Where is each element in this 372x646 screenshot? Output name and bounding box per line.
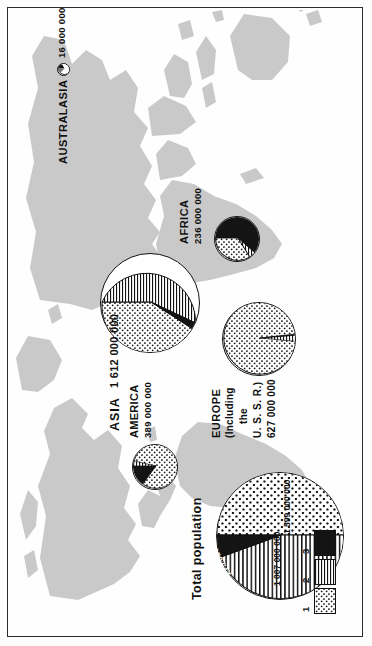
legend-number-3: 3 [300,549,311,554]
label-europe-value: 627 000 000 [266,379,278,438]
label-australasia-value: 16 000 000 [57,7,68,58]
label-america-title: AMERICA [128,385,141,438]
label-australasia-title: AUSTRALASIA [57,80,70,164]
legend-swatch-2-fill [315,559,336,584]
legend-swatch-1 [314,588,336,614]
pie-africa [214,216,260,262]
pie-australasia [57,63,70,76]
label-asia-title: ASIA [108,397,122,431]
figure-page: Total population 1 599 000 000 1 007 000… [0,0,372,646]
pie-america-svg [133,444,178,489]
pie-africa-svg [215,216,260,261]
pie-europe-svg [223,302,296,375]
legend-swatch-1-fill [315,588,336,613]
label-america-value: 389 000 000 [143,382,154,438]
legend-swatch-3 [314,530,336,556]
pie-america [132,444,178,490]
label-africa-title: AFRICA [178,199,191,244]
total-segment-label-dots: 1 599 000 000 [282,480,292,534]
label-asia-value: 1 612 000 000 [108,314,121,388]
legend-swatch-2 [314,559,336,585]
legend: 1 2 3 [300,494,342,614]
label-africa-value: 236 000 000 [193,188,204,244]
figure-frame: Total population 1 599 000 000 1 007 000… [7,7,363,637]
label-europe-title: EUROPE [210,389,223,438]
label-europe-sub1: (Including [224,387,236,438]
map-canvas: Total population 1 599 000 000 1 007 000… [10,10,362,636]
pie-australasia-svg [58,63,70,75]
total-population-title: Total population [190,497,204,600]
legend-number-1: 1 [300,607,311,612]
legend-number-2: 2 [300,578,311,583]
pie-europe [222,302,296,376]
total-segment-label-horizontal: 1 007 000 000 [272,532,282,586]
label-europe-sub2: the [238,408,250,424]
label-europe-sub3: U. S. S. R.) [252,381,264,438]
